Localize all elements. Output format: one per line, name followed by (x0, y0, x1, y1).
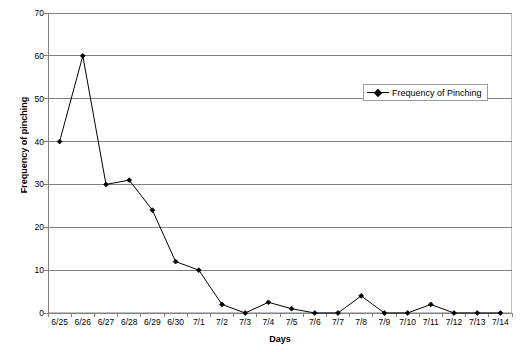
chart-svg-layer (0, 0, 524, 352)
gridlines (48, 13, 512, 313)
legend-line-marker-icon (367, 88, 389, 97)
data-point-marker (428, 302, 433, 307)
data-point-marker (405, 311, 410, 316)
x-tick-label: 6/30 (167, 318, 184, 327)
data-point-marker (266, 300, 271, 305)
x-tick-label: 6/25 (51, 318, 68, 327)
x-tick-label: 7/11 (423, 318, 439, 327)
data-point-marker (173, 259, 178, 264)
data-point-marker (312, 311, 317, 316)
data-point-marker (243, 311, 248, 316)
x-tick-label: 7/12 (446, 318, 463, 327)
x-axis-line-group (48, 313, 512, 317)
y-axis-line-group (44, 13, 48, 313)
x-tick-label: 7/13 (469, 318, 486, 327)
y-axis-title: Frequency of pinching (19, 45, 29, 245)
data-point-marker (104, 182, 109, 187)
chart-container: 010203040506070 6/256/266/276/286/296/30… (0, 0, 524, 352)
x-tick-label: 7/1 (193, 318, 205, 327)
x-tick-label: 6/29 (144, 318, 161, 327)
legend-item-label: Frequency of Pinching (392, 88, 482, 98)
x-axis-title: Days (48, 334, 512, 344)
x-tick-label: 6/26 (75, 318, 92, 327)
x-tick-label: 7/10 (399, 318, 416, 327)
chart-legend: Frequency of Pinching (363, 84, 488, 101)
x-tick-label: 7/4 (262, 318, 274, 327)
x-tick-label: 6/27 (98, 318, 115, 327)
x-tick-label: 7/6 (309, 318, 321, 327)
x-tick-label: 7/7 (332, 318, 344, 327)
data-point-marker (498, 311, 503, 316)
x-tick-label: 6/28 (121, 318, 138, 327)
x-tick-label: 7/5 (286, 318, 298, 327)
data-point-marker (57, 139, 62, 144)
x-tick-label: 7/3 (239, 318, 251, 327)
x-tick-label: 7/8 (355, 318, 367, 327)
data-point-marker (452, 311, 457, 316)
data-point-marker (80, 53, 85, 58)
data-point-marker (289, 306, 294, 311)
x-tick-label: 7/2 (216, 318, 228, 327)
x-tick-label: 7/9 (378, 318, 390, 327)
data-point-marker (475, 311, 480, 316)
x-tick-label: 7/14 (492, 318, 509, 327)
